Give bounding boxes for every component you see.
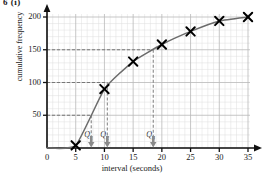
chart-canvas (0, 0, 264, 177)
chart-figure: 6 (i) cumulative frequency interval (sec… (0, 0, 264, 177)
quartile-arrows (88, 136, 156, 148)
grid-major (47, 14, 250, 148)
